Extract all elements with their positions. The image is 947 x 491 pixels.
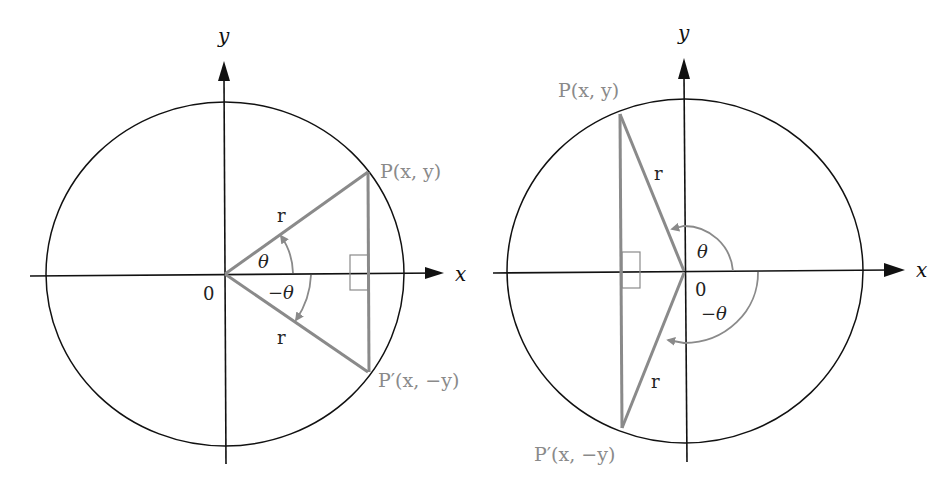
radius-label-bottom: r — [277, 327, 286, 348]
y-axis-arrow-icon — [218, 61, 230, 81]
x-axis — [493, 270, 890, 273]
point-p-prime-label: P′(x, −y) — [534, 443, 615, 465]
right-figure: y x 0 P(x, y) P′(x, −y) r r θ −θ — [493, 21, 927, 465]
diagram-canvas: y x 0 P(x, y) P′(x, −y) r r θ −θ y x 0 P… — [0, 0, 947, 491]
neg-theta-arc — [296, 275, 311, 320]
right-angle-marker — [350, 255, 368, 290]
point-p-prime-label: P′(x, −y) — [378, 369, 459, 391]
x-axis-label: x — [455, 262, 466, 286]
point-p-label: P(x, y) — [380, 160, 441, 182]
theta-arc — [281, 236, 293, 273]
y-axis-arrow-icon — [678, 58, 690, 79]
origin-label: 0 — [203, 283, 214, 304]
neg-theta-label: −θ — [268, 282, 294, 303]
left-figure: y x 0 P(x, y) P′(x, −y) r r θ −θ — [30, 24, 466, 464]
theta-label: θ — [697, 241, 708, 262]
right-angle-marker — [622, 252, 640, 288]
y-axis-label: y — [217, 24, 230, 48]
radius-label-top: r — [277, 205, 286, 226]
x-axis-arrow-icon — [884, 263, 905, 277]
theta-label: θ — [258, 251, 269, 272]
radius-label-top: r — [654, 163, 663, 184]
origin-label: 0 — [695, 279, 706, 300]
point-p-label: P(x, y) — [558, 79, 619, 101]
triangle-op-prime — [622, 273, 684, 428]
x-axis-arrow-icon — [425, 267, 444, 279]
radius-label-bottom: r — [651, 371, 660, 392]
x-axis — [30, 273, 440, 276]
triangle-op — [620, 114, 684, 271]
x-axis-label: x — [916, 258, 927, 282]
triangle-op-prime — [225, 274, 368, 372]
neg-theta-label: −θ — [701, 303, 727, 324]
y-axis-label: y — [677, 21, 690, 45]
y-axis — [224, 78, 226, 464]
triangle-op — [225, 172, 368, 274]
